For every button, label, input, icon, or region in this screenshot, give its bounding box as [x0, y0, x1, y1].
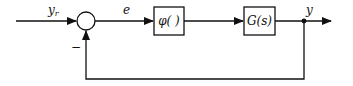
nonlinearity-label: φ( ) [158, 14, 180, 28]
feedback-path [86, 21, 304, 79]
reference-label: yr [47, 3, 60, 18]
plant-label: G(s) [247, 14, 272, 28]
feedback-sign: − [71, 40, 81, 54]
error-label: e [123, 3, 130, 17]
output-label: y [305, 3, 313, 17]
block-diagram: yr e φ( ) G(s) y − [0, 0, 353, 86]
summing-junction [77, 12, 95, 30]
